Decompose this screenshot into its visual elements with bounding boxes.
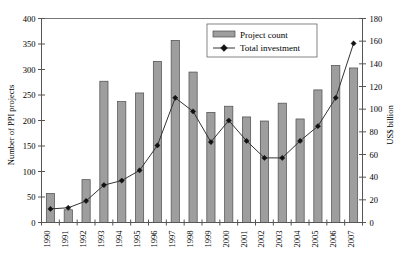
x-tick-label: 2006: [328, 231, 338, 248]
bar-project-count: [189, 72, 197, 222]
bar-project-count: [64, 210, 72, 223]
legend-label-total-investment: Total investment: [240, 43, 301, 53]
x-tick-label: 2000: [221, 231, 231, 248]
chart-container: 050100150200250300350400 020406080100120…: [0, 0, 404, 273]
x-tick-label: 1991: [60, 231, 70, 248]
x-tick-label: 2007: [346, 231, 356, 248]
bar-project-count: [153, 61, 161, 222]
x-tick-label: 1995: [132, 231, 142, 248]
x-tick-label: 1997: [167, 231, 177, 248]
x-tick-label: 1996: [149, 231, 159, 248]
y-tick-label-left: 150: [23, 141, 36, 151]
x-tick-label: 2005: [310, 231, 320, 248]
y-tick-label-right: 20: [370, 195, 379, 205]
x-axis-labels: 1990199119921993199419951996199719981999…: [42, 230, 355, 248]
y-tick-label-left: 300: [23, 65, 36, 75]
y-tick-label-right: 160: [370, 36, 383, 46]
y-axis-title-left: Number of PPI projects: [6, 85, 16, 166]
y-tick-label-right: 60: [370, 150, 379, 160]
x-tick-label: 1994: [114, 230, 124, 248]
x-tick-label: 1999: [203, 231, 213, 248]
y-axis-title-right: US$ billion: [385, 105, 395, 145]
bar-project-count: [207, 112, 215, 222]
data-point-marker: [351, 41, 356, 46]
chart-legend: Project count Total investment: [207, 24, 317, 57]
bar-project-count: [296, 119, 304, 223]
y-tick-label-left: 200: [23, 116, 36, 126]
x-tick-label: 1998: [185, 231, 195, 248]
y-tick-label-right: 0: [370, 218, 374, 228]
bar-project-count: [118, 102, 126, 223]
y-tick-label-right: 120: [370, 82, 383, 92]
y-tick-label-right: 180: [370, 14, 383, 24]
x-tick-label: 1990: [42, 231, 52, 248]
bar-project-count: [135, 93, 143, 223]
y-tick-label-left: 400: [23, 14, 36, 24]
bar-project-count: [314, 90, 322, 223]
x-tick-label: 2003: [274, 231, 284, 248]
x-tick-label: 1993: [96, 231, 106, 248]
line-series-total-investment: [50, 43, 353, 208]
y-tick-label-left: 100: [23, 167, 36, 177]
legend-label-project-count: Project count: [240, 30, 288, 40]
y-tick-label-left: 50: [27, 192, 36, 202]
y-tick-label-right: 100: [370, 104, 383, 114]
y-tick-label-right: 40: [370, 172, 379, 182]
legend-swatch-project-count: [213, 31, 235, 37]
bar-project-count: [260, 121, 268, 222]
y-tick-label-left: 350: [23, 39, 36, 49]
bar-project-count: [349, 68, 357, 223]
x-tick-label: 2004: [292, 230, 302, 248]
y-tick-label-left: 250: [23, 90, 36, 100]
bar-project-count: [242, 117, 250, 223]
bar-project-count: [278, 103, 286, 222]
y-tick-label-left: 0: [31, 218, 35, 228]
y-tick-label-right: 140: [370, 59, 383, 69]
ppi-projects-chart: 050100150200250300350400 020406080100120…: [0, 0, 404, 273]
x-tick-label: 2002: [256, 231, 266, 248]
bar-project-count: [171, 40, 179, 222]
line-path-total-investment: [50, 43, 353, 208]
y-tick-label-right: 80: [370, 127, 379, 137]
x-tick-label: 1992: [78, 231, 88, 248]
bar-project-count: [100, 81, 108, 222]
x-tick-label: 2001: [239, 230, 249, 247]
